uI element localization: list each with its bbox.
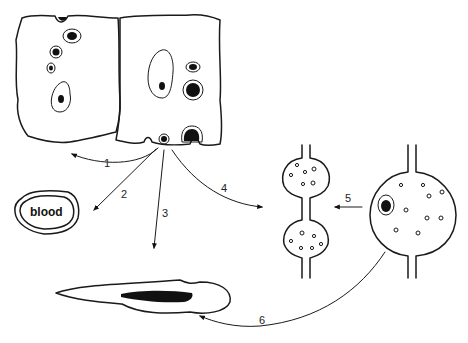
svg-text:blood: blood	[30, 205, 63, 219]
arrow-5: 5	[335, 192, 362, 207]
granules	[289, 163, 322, 249]
svg-text:1: 1	[104, 157, 110, 169]
svg-text:2: 2	[121, 188, 127, 200]
svg-text:6: 6	[259, 314, 265, 326]
arrow-1: 1	[72, 148, 158, 169]
vessel-two-chambers	[283, 145, 330, 278]
tissue-block-left	[16, 15, 120, 142]
svg-text:4: 4	[221, 182, 227, 194]
vacuole-right	[148, 50, 173, 98]
blood-vessel: blood	[15, 191, 79, 234]
tissue-block-right	[116, 15, 222, 146]
arrow-6: 6	[200, 252, 385, 326]
nucleus	[121, 291, 193, 302]
diagram-canvas: 1 2 3 4 blood 6	[0, 0, 468, 343]
elongated-cell	[56, 280, 230, 313]
granules-large	[394, 183, 444, 235]
vessel-large-chamber	[370, 145, 456, 278]
arrow-4: 4	[172, 150, 262, 207]
svg-text:3: 3	[162, 207, 168, 219]
nucleus-large	[381, 200, 391, 212]
svg-text:5: 5	[345, 192, 351, 204]
arrow-3: 3	[154, 150, 168, 248]
